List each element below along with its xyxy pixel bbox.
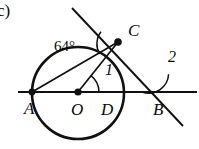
angle-label-1: 1: [105, 62, 113, 78]
angle-label-64: 64°: [54, 39, 75, 54]
point-label-d: D: [101, 101, 113, 118]
point-label-a: A: [24, 100, 34, 117]
point-dot-c: [114, 38, 122, 46]
point-label-b: B: [153, 101, 163, 118]
angle-label-2: 2: [168, 49, 176, 65]
figure-canvas: [0, 0, 199, 149]
point-dot-o: [74, 88, 81, 95]
angle-arc-2: [142, 74, 169, 93]
point-dot-a: [29, 89, 36, 96]
figure-label: c): [0, 2, 10, 19]
geometry-figure: c) 64° 1 2 A O D B C: [0, 0, 199, 149]
point-label-o: O: [71, 101, 83, 118]
angle-arc-1: [91, 75, 99, 92]
point-label-c: C: [128, 22, 139, 39]
